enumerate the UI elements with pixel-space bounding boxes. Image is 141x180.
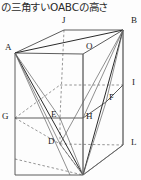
vertex-label-J: J: [62, 16, 66, 25]
vertex-label-O: O: [86, 42, 93, 51]
edge-L-C: [83, 145, 123, 175]
edge-B-C: [83, 30, 123, 175]
edge-A-C: [15, 53, 83, 175]
caption-text: の三角すいOABCの高さ: [0, 0, 141, 15]
vertex-label-L: L: [131, 138, 137, 147]
figure-page: の三角すいOABCの高さ: [0, 0, 141, 180]
edge-D-C: [60, 144, 83, 175]
edge-A-J: [15, 30, 64, 53]
edge-A-Hlow: [15, 53, 70, 175]
pyramid-edges-group: [15, 30, 123, 175]
edge-A-D: [15, 53, 60, 144]
vertex-label-A: A: [5, 43, 12, 52]
construction-lines-group: [15, 30, 123, 175]
vertex-label-F: F: [109, 93, 114, 102]
vertex-label-I: I: [132, 78, 135, 87]
edge-A-B: [15, 30, 123, 53]
vertex-label-B: B: [131, 16, 137, 25]
vertex-label-G: G: [2, 112, 9, 121]
hidden-edges-group: [15, 30, 123, 175]
figure-svg: [0, 14, 141, 180]
vertex-label-H: H: [86, 112, 93, 121]
prism-edges-group: [15, 30, 123, 175]
vertex-label-E: E: [51, 110, 57, 119]
edge-E-C: [60, 118, 83, 175]
geometry-figure: J B A O I F G E H D L: [0, 14, 141, 180]
vertex-label-D: D: [48, 137, 55, 146]
edge-A-O: [15, 53, 83, 54]
